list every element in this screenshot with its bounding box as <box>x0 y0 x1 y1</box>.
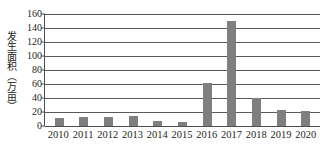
x-axis-tick-label: 2018 <box>244 128 269 146</box>
y-axis-tick-label: 140 <box>27 23 42 33</box>
x-axis-tick-label: 2013 <box>120 128 145 146</box>
x-axis-tick-label: 2020 <box>293 128 318 146</box>
bar <box>153 121 162 126</box>
bar <box>79 117 88 126</box>
bar-slot <box>219 14 244 126</box>
bar-slot <box>121 14 146 126</box>
y-axis-tick-label: 100 <box>27 51 42 61</box>
bar <box>178 122 187 126</box>
bar-slot <box>170 14 195 126</box>
bar-slot <box>47 14 72 126</box>
bar-slot <box>96 14 121 126</box>
bar <box>129 116 138 126</box>
bar <box>252 98 261 126</box>
x-axis-tick-label: 2012 <box>95 128 120 146</box>
bar-slot <box>195 14 220 126</box>
bar-slot <box>146 14 171 126</box>
bar-chart: 发生面积（万亩） 020406080100120140160 201020112… <box>0 0 324 163</box>
x-axis-tick-label: 2011 <box>71 128 96 146</box>
y-axis-tick-label: 160 <box>27 9 42 19</box>
x-axis-tick-label: 2019 <box>269 128 294 146</box>
bar-slot <box>269 14 294 126</box>
bar-slot <box>244 14 269 126</box>
y-axis-tick-label: 120 <box>27 37 42 47</box>
x-axis-tick-label: 2010 <box>46 128 71 146</box>
x-axis-tick-label: 2015 <box>170 128 195 146</box>
bar <box>203 83 212 126</box>
bar <box>55 118 64 126</box>
x-axis-tick-label: 2014 <box>145 128 170 146</box>
bar-slot <box>293 14 318 126</box>
bar <box>104 117 113 126</box>
y-axis-tick-labels: 020406080100120140160 <box>16 14 42 126</box>
x-axis-tick-label: 2017 <box>219 128 244 146</box>
bar-slot <box>72 14 97 126</box>
bar <box>277 110 286 126</box>
bar <box>301 111 310 126</box>
bar <box>227 21 236 126</box>
bars-layer <box>45 14 320 126</box>
gridline <box>45 126 320 127</box>
x-axis-tick-labels: 2010201120122013201420152016201720182019… <box>44 128 320 146</box>
x-axis-tick-label: 2016 <box>194 128 219 146</box>
plot-area <box>44 14 320 126</box>
